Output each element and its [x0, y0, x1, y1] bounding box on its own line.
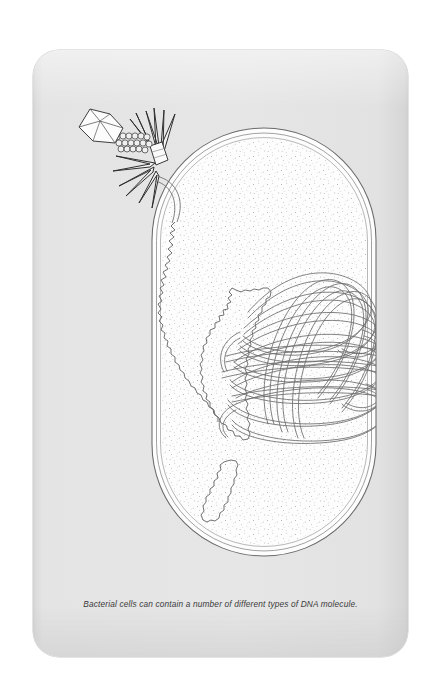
bacterial-cell-diagram	[0, 0, 434, 691]
figure-root: Bacterial cells can contain a number of …	[0, 0, 434, 691]
bacteriophage	[79, 108, 175, 208]
phage-head	[79, 109, 123, 143]
phage-tail	[114, 133, 152, 153]
figure-caption: Bacterial cells can contain a number of …	[33, 598, 408, 610]
